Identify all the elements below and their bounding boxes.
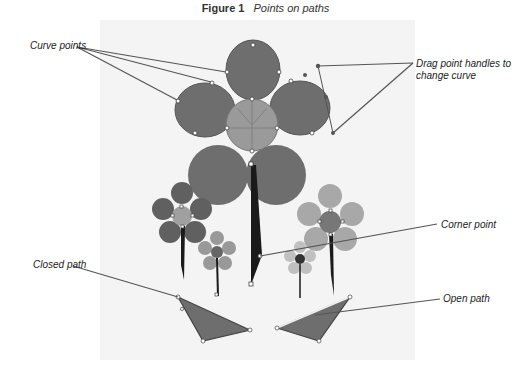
petal-top — [226, 40, 280, 100]
callout-drag-handles-line1: Drag point handles to — [416, 58, 511, 70]
callout-closed-path: Closed path — [33, 259, 86, 271]
callout-open-path: Open path — [443, 293, 490, 305]
illustration — [0, 0, 531, 373]
petal — [188, 145, 248, 205]
callout-curve-points: Curve points — [30, 40, 86, 52]
callout-drag-handles-line2: change curve — [416, 70, 511, 82]
callout-corner-point: Corner point — [441, 219, 496, 231]
callout-drag-handles: Drag point handles to change curve — [416, 58, 511, 82]
